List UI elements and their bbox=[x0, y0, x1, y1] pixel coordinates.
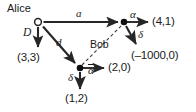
payoff-bottom-alpha: (2,0) bbox=[108, 62, 131, 74]
action-label-bob-bottom-delta: δ bbox=[68, 72, 73, 83]
edge-bob-top-delta bbox=[126, 26, 136, 44]
action-label-bob-top-alpha: α bbox=[130, 9, 136, 20]
node-bob-bottom bbox=[77, 65, 84, 72]
payoff-alice-outside: (3,3) bbox=[17, 52, 40, 64]
action-label-alice-a: a bbox=[76, 8, 82, 19]
action-label-bob-bottom-alpha: α bbox=[88, 64, 94, 76]
action-label-alice-deviate: D bbox=[23, 27, 31, 39]
node-bob-top bbox=[121, 19, 128, 26]
player-label-alice: Alice bbox=[7, 3, 31, 14]
payoff-top-alpha: (4,1) bbox=[152, 16, 175, 28]
action-label-bob-top-delta: δ bbox=[138, 29, 143, 40]
game-tree-figure: Alice Bob D a d α δ α δ (3,3) (4,1) (–10… bbox=[0, 0, 196, 112]
node-root-alice bbox=[35, 19, 42, 26]
payoff-bottom-delta: (1,2) bbox=[65, 93, 88, 105]
player-label-bob: Bob bbox=[90, 39, 109, 50]
payoff-top-delta: (–1000,0) bbox=[131, 50, 178, 62]
action-label-alice-d: d bbox=[56, 37, 62, 48]
